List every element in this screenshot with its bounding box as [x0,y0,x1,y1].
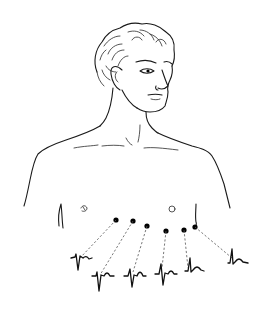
ecg-trace-v4 [155,264,177,285]
leader-v1 [80,220,116,258]
lower-lip [151,99,160,100]
neck-left [100,88,113,126]
arm-inner-right [195,204,196,228]
leader-v6 [195,227,232,258]
nose [156,70,168,90]
electrodes [113,217,197,233]
hair-strands [100,30,166,66]
shoulder-left [24,126,100,206]
jaw-line [122,90,137,108]
neck-tendon [126,125,140,145]
illustration-svg [0,0,264,309]
ear [111,67,122,90]
ecg-lead-placement-illustration [0,0,264,309]
ecg-trace-v2 [92,272,114,291]
leader-v3 [133,226,147,272]
ecg-trace-v3 [124,269,146,287]
ear-inner [115,72,118,82]
neck-right [146,112,158,133]
leader-v5 [184,230,188,268]
ecg-traces [71,249,248,291]
clavicle-left [74,145,124,148]
hair-outline [95,23,174,72]
shoulder-right [158,133,230,208]
clavicle-right [144,148,178,150]
ecg-trace-v6 [228,249,248,264]
nipple-left [81,206,87,212]
ecg-trace-v1 [71,254,92,270]
leader-v2 [100,221,133,275]
neck [100,88,158,145]
pupil [146,69,149,72]
torso [24,126,230,228]
head [95,23,174,112]
leader-lines [80,220,232,275]
mouth [148,94,162,95]
leader-v4 [162,231,166,268]
nipple-right [169,206,175,212]
eyebrow [136,61,172,64]
arm-inner-left [59,204,63,228]
